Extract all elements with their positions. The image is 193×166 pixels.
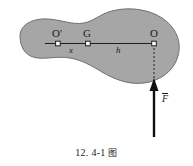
figure-caption-number: 12. 4-1: [75, 147, 105, 158]
label-point-o: O: [150, 28, 158, 39]
label-point-o-prime: O': [52, 28, 62, 39]
label-dimension-x: x: [69, 46, 73, 55]
point-marker-o: [152, 41, 157, 46]
diagram-canvas: [0, 0, 193, 144]
figure-caption-cjk: 图: [108, 148, 117, 158]
label-force-f: F: [162, 93, 168, 105]
figure-container: O' G O x h F 12. 4-1 图: [0, 0, 193, 166]
point-marker-o-prime: [56, 41, 61, 46]
label-force-f-text: F: [162, 93, 168, 105]
label-dimension-h: h: [116, 46, 121, 55]
figure-caption: 12. 4-1 图: [0, 146, 193, 159]
label-point-g: G: [83, 28, 91, 39]
point-marker-g: [86, 41, 91, 46]
